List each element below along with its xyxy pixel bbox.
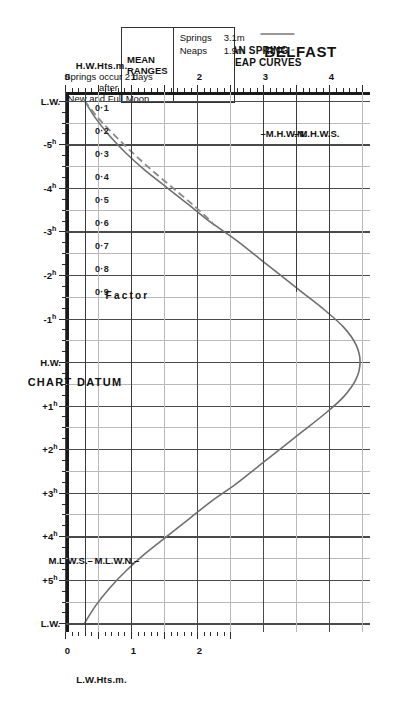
factor-tick-03: 0·3: [84, 149, 120, 159]
subtitle-line-2: AND NEAP CURVES: [187, 57, 317, 69]
tick-lw-0.3: [85, 632, 86, 636]
tick-lw-1.2: [144, 632, 145, 636]
mlws-label: M.L.W.S.–: [48, 555, 128, 566]
tick-lw-2.5: [230, 632, 231, 639]
subtitle-line-1: MEAN SPRING: [187, 45, 317, 57]
tick-lw-0.8: [118, 632, 119, 636]
time-tick-plus4: +4h: [28, 530, 72, 542]
mhws-reference-line: [296, 92, 297, 292]
tick-lw-0.9: [125, 632, 126, 636]
hw-height-tick-3: 3: [258, 71, 274, 82]
factor-axis-title: Factor: [98, 289, 158, 300]
tick-hw-3.5: [296, 85, 297, 92]
tick-lw-0.5: [98, 632, 99, 639]
tick-hw-0.5: [98, 85, 99, 92]
tick-lw-1.3: [151, 632, 152, 636]
hw-height-tick-2: 2: [192, 71, 208, 82]
page-subtitle: MEAN SPRING AND NEAP CURVES: [187, 45, 317, 69]
legend-neaps-value: 1.9m: [224, 45, 245, 56]
hw-height-tick-4: 4: [324, 71, 340, 82]
time-tick-LW.: L.W.: [29, 618, 73, 629]
springs-line-sample: [261, 34, 295, 35]
tick-hw-1.5: [164, 85, 165, 92]
legend-row-neaps: Neaps1.9m: [180, 44, 245, 57]
legend-line-samples: [232, 25, 292, 65]
factor-tick-07: 0·7: [84, 241, 120, 251]
tick-lw-1.8: [184, 632, 185, 636]
lw-height-tick-0: 0: [60, 645, 76, 656]
plot-area: 01234012L.W.-5h-4h-3h-2h-1hH.W.+1h+2h+3h…: [66, 92, 370, 632]
tick-hw-2.0: [197, 85, 198, 92]
tick-lw-0.1: [72, 632, 73, 636]
legend-row-springs: Springs3.1m: [180, 31, 245, 44]
time-tick-minus4: -4h: [28, 182, 72, 194]
lw-axis-title: L.W.Hts.m.: [67, 674, 137, 685]
tidal-curve-diagram: BELFAST MEAN SPRING AND NEAP CURVES MEAN…: [0, 0, 412, 716]
time-tick-plus1: +1h: [28, 399, 72, 411]
hw-height-tick-1: 1: [126, 71, 142, 82]
time-tick-HW.: H.W.: [29, 357, 73, 368]
mhwn-label: –M.H.W.N.: [227, 128, 307, 139]
factor-tick-08: 0·8: [84, 264, 120, 274]
tick-lw-2.1: [204, 632, 205, 636]
time-tick-plus3: +3h: [28, 487, 72, 499]
legend-springs-key: Springs: [180, 31, 224, 44]
hw-axis-title: H.W.Hts.m.: [67, 60, 137, 71]
legend-rows: Springs3.1m Neaps1.9m: [174, 28, 251, 102]
mhwn-reference-line: [263, 92, 264, 458]
tick-lw-1.7: [177, 632, 178, 636]
tick-lw-2.2: [210, 632, 211, 636]
spring-curve: [85, 101, 361, 624]
time-tick-minus2: -2h: [28, 269, 72, 281]
tick-lw-0.4: [91, 632, 92, 636]
time-tick-minus1: -1h: [28, 312, 72, 324]
mlwn-reference-line: [131, 92, 132, 632]
tick-lw-1.6: [171, 632, 172, 636]
tick-lw-2.4: [224, 632, 225, 636]
factor-tick-01: 0·1: [84, 103, 120, 113]
time-tick-minus5: -5h: [28, 138, 72, 150]
neaps-line-sample: [261, 50, 295, 51]
tick-lw-0.6: [105, 632, 106, 636]
time-tick-minus3: -3h: [28, 225, 72, 237]
tick-lw-0.7: [111, 632, 112, 636]
tick-lw-1.1: [138, 632, 139, 636]
tick-lw-0.2: [78, 632, 79, 636]
factor-tick-06: 0·6: [84, 218, 120, 228]
tick-hw-4.5: [362, 85, 363, 92]
height-4-reference-line: [329, 92, 330, 319]
time-tick-plus5: +5h: [28, 574, 72, 586]
tick-lw-2.0: [197, 632, 198, 639]
tick-hw-1.0: [131, 85, 132, 92]
factor-tick-05: 0·5: [84, 195, 120, 205]
tick-lw-1.9: [191, 632, 192, 636]
tick-lw-1.0: [131, 632, 132, 639]
hw-height-tick-0: 0: [60, 71, 76, 82]
tick-hw-0.0: [65, 85, 66, 92]
chart-datum-label: CHART DATUM: [15, 376, 135, 388]
factor-tick-02: 0·2: [84, 126, 120, 136]
tick-hw-3.0: [263, 85, 264, 92]
legend-neaps-key: Neaps: [180, 44, 224, 57]
lw-height-tick-2: 2: [192, 645, 208, 656]
tick-hw-2.5: [230, 85, 231, 92]
time-tick-plus2: +2h: [28, 443, 72, 455]
page-title: BELFAST: [241, 43, 361, 60]
legend-springs-value: 3.1m: [224, 32, 245, 43]
tick-lw-0.0: [65, 632, 66, 639]
tick-hw-4.0: [329, 85, 330, 92]
tick-lw-1.4: [158, 632, 159, 636]
lw-height-tick-1: 1: [126, 645, 142, 656]
factor-tick-04: 0·4: [84, 172, 120, 182]
time-tick-LW.: L.W.: [29, 95, 73, 106]
tick-lw-2.3: [217, 632, 218, 636]
tick-lw-1.5: [164, 632, 165, 639]
